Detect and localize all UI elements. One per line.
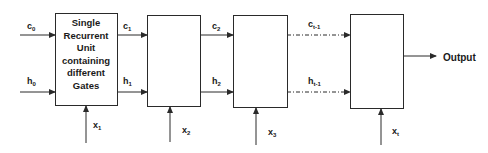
unit-box-2 <box>148 16 201 107</box>
label-x2: x2 <box>182 126 190 136</box>
label-c1: c1 <box>123 22 131 32</box>
output-label: Output <box>443 52 476 63</box>
unit-text-line: different <box>55 67 117 80</box>
unit-text-line: containing <box>55 55 117 68</box>
label-h0: h0 <box>27 77 36 87</box>
label-h2: h2 <box>212 77 221 87</box>
unit-text-line: Gates <box>55 80 117 93</box>
label-xt: xt <box>392 127 399 137</box>
label-x3: x3 <box>268 128 276 138</box>
unit-box-3 <box>234 16 288 108</box>
unit-text-line: Single <box>55 17 117 30</box>
unit-text-line: Unit <box>55 42 117 55</box>
unit-box-4 <box>351 15 404 109</box>
label-h1: h1 <box>123 77 132 87</box>
label-h-t-minus-1: ht-1 <box>308 77 321 87</box>
first-unit-description: Single Recurrent Unit containing differe… <box>55 17 117 93</box>
label-c2: c2 <box>212 22 220 32</box>
label-x1: x1 <box>93 121 101 131</box>
unit-text-line: Recurrent <box>55 30 117 43</box>
label-c-t-minus-1: ct-1 <box>308 20 320 30</box>
label-c0: c0 <box>27 22 35 32</box>
